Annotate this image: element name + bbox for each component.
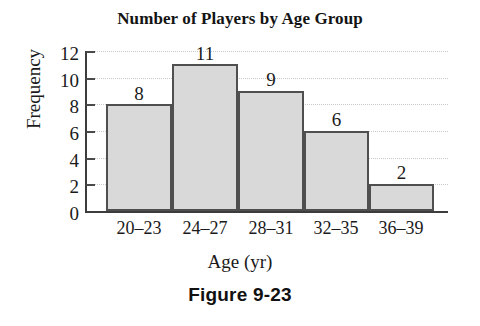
y-tick-label-8: 8 <box>49 97 79 116</box>
y-tick-label-6: 6 <box>49 124 79 143</box>
bar-24-27[interactable] <box>172 64 238 211</box>
y-axis-tick-labels: 12 10 8 6 4 2 0 <box>47 44 79 219</box>
figure-caption: Figure 9-23 <box>0 284 480 306</box>
bar-value-36-39: 2 <box>369 163 434 182</box>
y-tick-mark-4 <box>86 158 95 160</box>
y-tick-mark-10 <box>86 78 95 80</box>
bar-value-32-35: 6 <box>304 110 369 129</box>
figure-container: Number of Players by Age Group Frequency… <box>0 0 480 326</box>
y-tick-mark-6 <box>86 131 95 133</box>
bar-32-35[interactable] <box>304 131 369 211</box>
x-tick-label-24-27: 24–27 <box>169 219 241 237</box>
y-tick-label-0: 0 <box>49 204 79 223</box>
y-axis-title: Frequency <box>23 24 45 154</box>
x-axis-line <box>85 211 448 213</box>
bar-value-24-27: 11 <box>172 44 238 63</box>
bar-36-39[interactable] <box>369 184 434 211</box>
x-tick-label-20-23: 20–23 <box>103 219 175 237</box>
y-tick-mark-12 <box>86 51 95 53</box>
x-axis-title: Age (yr) <box>0 251 480 273</box>
x-tick-label-36-39: 36–39 <box>365 219 437 237</box>
y-tick-label-10: 10 <box>49 71 79 90</box>
y-tick-mark-8 <box>86 104 95 106</box>
bar-28-31[interactable] <box>238 91 304 211</box>
bar-20-23[interactable] <box>106 104 172 211</box>
chart-title: Number of Players by Age Group <box>0 9 480 29</box>
y-tick-label-12: 12 <box>49 44 79 63</box>
y-tick-label-2: 2 <box>49 177 79 196</box>
bar-value-20-23: 8 <box>106 84 172 103</box>
x-tick-label-32-35: 32–35 <box>300 219 372 237</box>
bar-value-28-31: 9 <box>238 70 304 89</box>
plot-area: 8 11 9 6 2 20–23 24–27 28–31 32–35 36–39 <box>85 44 448 212</box>
y-tick-label-4: 4 <box>49 151 79 170</box>
x-tick-label-28-31: 28–31 <box>235 219 307 237</box>
y-tick-mark-2 <box>86 184 95 186</box>
